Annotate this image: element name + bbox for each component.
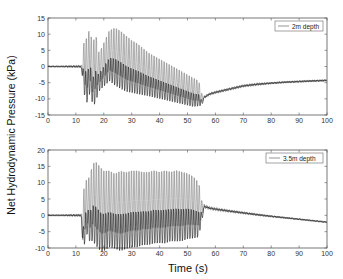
y-tick-label: -10	[35, 245, 45, 252]
x-tick-label: 70	[239, 117, 247, 124]
x-tick-label: 90	[295, 117, 303, 124]
y-tick-label: 15	[37, 15, 45, 22]
x-tick-label: 100	[321, 250, 333, 257]
x-tick-label: 20	[100, 117, 108, 124]
x-tick-label: 60	[212, 117, 220, 124]
x-tick-label: 20	[100, 250, 108, 257]
y-tick-label: 10	[37, 31, 45, 38]
x-tick-label: 50	[184, 117, 192, 124]
y-tick-label: -15	[35, 112, 45, 119]
y-tick-label: 0	[41, 63, 45, 70]
x-axis-title: Time (s)	[168, 262, 208, 274]
y-tick-label: -10	[35, 95, 45, 102]
x-tick-label: 80	[267, 117, 275, 124]
legend: 3.5m depth	[266, 153, 323, 163]
y-tick-label: -5	[39, 228, 45, 235]
x-tick-label: 40	[156, 117, 164, 124]
plot-2m-depth: 0102030405060708090100-15-10-50510152m d…	[35, 15, 333, 125]
plot-3.5m-depth: 0102030405060708090100-10-5051015203.5m …	[35, 147, 333, 258]
x-tick-label: 40	[156, 250, 164, 257]
y-tick-label: -5	[39, 79, 45, 86]
x-tick-label: 30	[128, 117, 136, 124]
x-tick-label: 30	[128, 250, 136, 257]
x-tick-label: 100	[321, 117, 333, 124]
x-tick-label: 70	[239, 250, 247, 257]
y-tick-label: 10	[37, 179, 45, 186]
x-tick-label: 50	[184, 250, 192, 257]
x-tick-label: 80	[267, 250, 275, 257]
y-tick-label: 15	[37, 163, 45, 170]
x-tick-label: 10	[72, 250, 80, 257]
x-tick-label: 60	[212, 250, 220, 257]
x-tick-label: 0	[46, 250, 50, 257]
y-tick-label: 5	[41, 47, 45, 54]
legend-label: 2m depth	[292, 23, 319, 31]
legend: 2m depth	[275, 21, 323, 31]
x-tick-label: 0	[46, 117, 50, 124]
y-tick-label: 0	[41, 212, 45, 219]
y-tick-label: 20	[37, 147, 45, 154]
x-tick-label: 10	[72, 117, 80, 124]
y-tick-label: 5	[41, 196, 45, 203]
figure: Net Hydrodynamic Pressure (kPa) Time (s)…	[0, 0, 343, 279]
legend-label: 3.5m depth	[283, 155, 316, 163]
y-axis-title: Net Hydrodynamic Pressure (kPa)	[5, 55, 17, 214]
x-tick-label: 90	[295, 250, 303, 257]
